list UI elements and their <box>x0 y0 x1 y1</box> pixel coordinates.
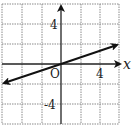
coordinate-plane <box>0 0 132 131</box>
y-tick-label-4: 4 <box>50 19 58 31</box>
y-tick-label-neg4: -4 <box>44 99 56 111</box>
x-axis-label: x <box>123 57 131 71</box>
origin-label: O <box>50 68 60 80</box>
x-tick-label-4: 4 <box>96 68 104 80</box>
